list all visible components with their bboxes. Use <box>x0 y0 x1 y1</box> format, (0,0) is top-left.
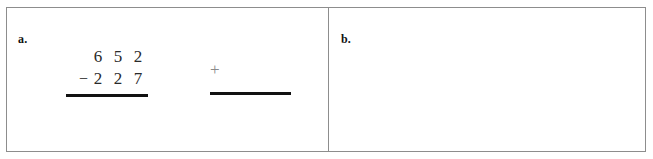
minus-sign-a: − <box>70 70 88 88</box>
problem-panel-b: b. 5 4 8 − 1 8 5 + <box>329 7 646 152</box>
panel-label-a: a. <box>18 32 27 47</box>
minuend-digit-tens-a: 5 <box>108 47 128 67</box>
problem-panel-a: a. 6 5 2 − 2 2 7 + <box>6 7 328 152</box>
subtraction-answer-a[interactable] <box>60 97 148 119</box>
subtraction-problem-a: 6 5 2 − 2 2 7 <box>60 47 148 119</box>
check-addition-a: + <box>204 47 291 117</box>
subtrahend-digit-hundreds-a: 2 <box>88 69 108 89</box>
worksheet: a. 6 5 2 − 2 2 7 + b. <box>0 0 653 159</box>
check-answer-a[interactable] <box>204 95 291 117</box>
subtrahend-row-a: − 2 2 7 <box>60 69 148 91</box>
minuend-digit-hundreds-a: 6 <box>88 47 108 67</box>
panel-label-b: b. <box>341 32 351 47</box>
minuend-row-a: 6 5 2 <box>60 47 148 69</box>
plus-sign-a: + <box>204 47 291 92</box>
subtrahend-digit-ones-a: 7 <box>128 69 148 89</box>
minuend-digit-ones-a: 2 <box>128 47 148 67</box>
subtrahend-digit-tens-a: 2 <box>108 69 128 89</box>
